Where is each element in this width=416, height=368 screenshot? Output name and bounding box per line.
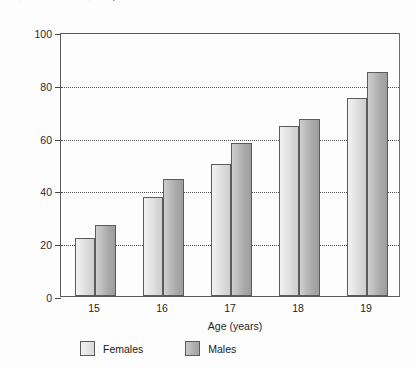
x-tick-label-16: 16 bbox=[156, 302, 168, 314]
y-tick-mark bbox=[55, 192, 61, 193]
y-tick-label: 20 bbox=[40, 239, 52, 251]
x-tick-label-19: 19 bbox=[360, 302, 372, 314]
legend-swatch-females bbox=[80, 341, 95, 356]
legend-item-males: Males bbox=[185, 341, 236, 356]
bar-females-age-15 bbox=[75, 238, 96, 296]
bar-females-age-18 bbox=[279, 126, 300, 296]
y-tick-mark bbox=[55, 245, 61, 246]
y-tick-label: 80 bbox=[40, 81, 52, 93]
bar-chart-figure: 1996, 16, and Santelli, 2007). 020406080… bbox=[0, 0, 416, 368]
y-tick-mark bbox=[55, 298, 61, 299]
bar-females-age-19 bbox=[347, 98, 368, 296]
bar-females-age-17 bbox=[211, 164, 232, 296]
y-tick-mark bbox=[55, 140, 61, 141]
x-tick-label-17: 17 bbox=[224, 302, 236, 314]
clipped-caption-text: 1996, 16, and Santelli, 2007). bbox=[0, 0, 416, 5]
gridline bbox=[61, 87, 399, 88]
y-tick-label: 60 bbox=[40, 134, 52, 146]
legend-swatch-males bbox=[185, 341, 200, 356]
x-tick-label-15: 15 bbox=[88, 302, 100, 314]
x-axis-title: Age (years) bbox=[0, 320, 416, 332]
bar-males-age-15 bbox=[95, 225, 116, 296]
y-tick-mark bbox=[55, 34, 61, 35]
y-tick-label: 40 bbox=[40, 186, 52, 198]
bar-females-age-16 bbox=[143, 197, 164, 296]
bar-males-age-17 bbox=[231, 143, 252, 296]
y-tick-mark bbox=[55, 87, 61, 88]
plot-area: 020406080100 bbox=[60, 33, 400, 297]
y-tick-label: 100 bbox=[34, 28, 52, 40]
chart-legend: FemalesMales bbox=[80, 341, 236, 356]
bar-males-age-18 bbox=[299, 119, 320, 296]
y-tick-label: 0 bbox=[46, 292, 52, 304]
bar-males-age-19 bbox=[367, 72, 388, 296]
legend-item-females: Females bbox=[80, 341, 143, 356]
legend-label-females: Females bbox=[103, 343, 143, 355]
x-tick-label-18: 18 bbox=[292, 302, 304, 314]
legend-label-males: Males bbox=[208, 343, 236, 355]
bar-males-age-16 bbox=[163, 179, 184, 296]
